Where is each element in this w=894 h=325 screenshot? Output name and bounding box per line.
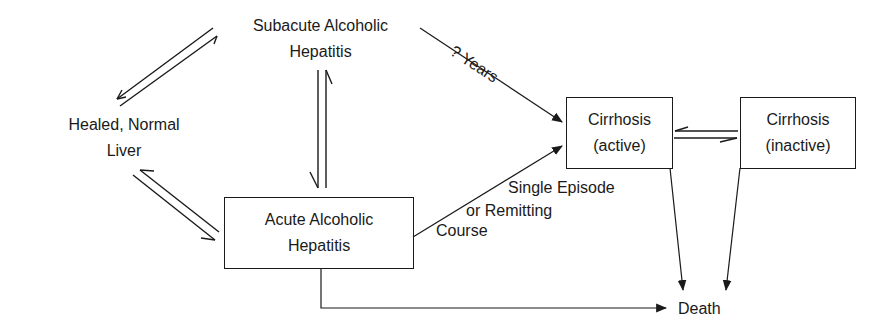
edge-label-single-episode-line1: Single Episode (436, 178, 576, 197)
edge-subacute-acute (310, 70, 332, 188)
node-healed: Healed, Normal Liver (38, 115, 210, 160)
node-subacute-line1: Subacute Alcoholic (218, 16, 423, 35)
node-cirrhosis-inactive-line2: (inactive) (766, 136, 831, 156)
edge-subacute-healed (117, 28, 217, 106)
edge-healed-acute (133, 170, 219, 240)
node-cirrhosis-inactive: Cirrhosis (inactive) (740, 97, 856, 169)
edge-label-single-episode-line2: or Remitting (436, 201, 576, 220)
node-acute-line1: Acute Alcoholic (265, 210, 374, 230)
node-cirrhosis-inactive-line1: Cirrhosis (766, 110, 829, 130)
node-cirrhosis-active-line2: (active) (593, 136, 645, 156)
node-cirrhosis-active-line1: Cirrhosis (588, 110, 651, 130)
node-subacute-line2: Hepatitis (218, 42, 423, 61)
edge-cirrhosis-active-death (670, 168, 683, 290)
edge-label-single-episode-line3: Course (436, 221, 576, 240)
node-cirrhosis-active: Cirrhosis (active) (566, 97, 673, 169)
node-subacute: Subacute Alcoholic Hepatitis (218, 16, 423, 61)
node-healed-line2: Liver (38, 141, 210, 160)
edge-cirrhosis-inactive-death (726, 168, 740, 290)
node-healed-line1: Healed, Normal (38, 115, 210, 134)
edge-label-single-episode: Single Episode or Remitting Course (436, 178, 576, 240)
node-death: Death (678, 299, 721, 318)
edge-cirrhosis-active-inactive (674, 127, 738, 142)
node-acute: Acute Alcoholic Hepatitis (224, 197, 414, 269)
node-acute-line2: Hepatitis (288, 236, 350, 256)
edge-acute-death (321, 268, 666, 308)
